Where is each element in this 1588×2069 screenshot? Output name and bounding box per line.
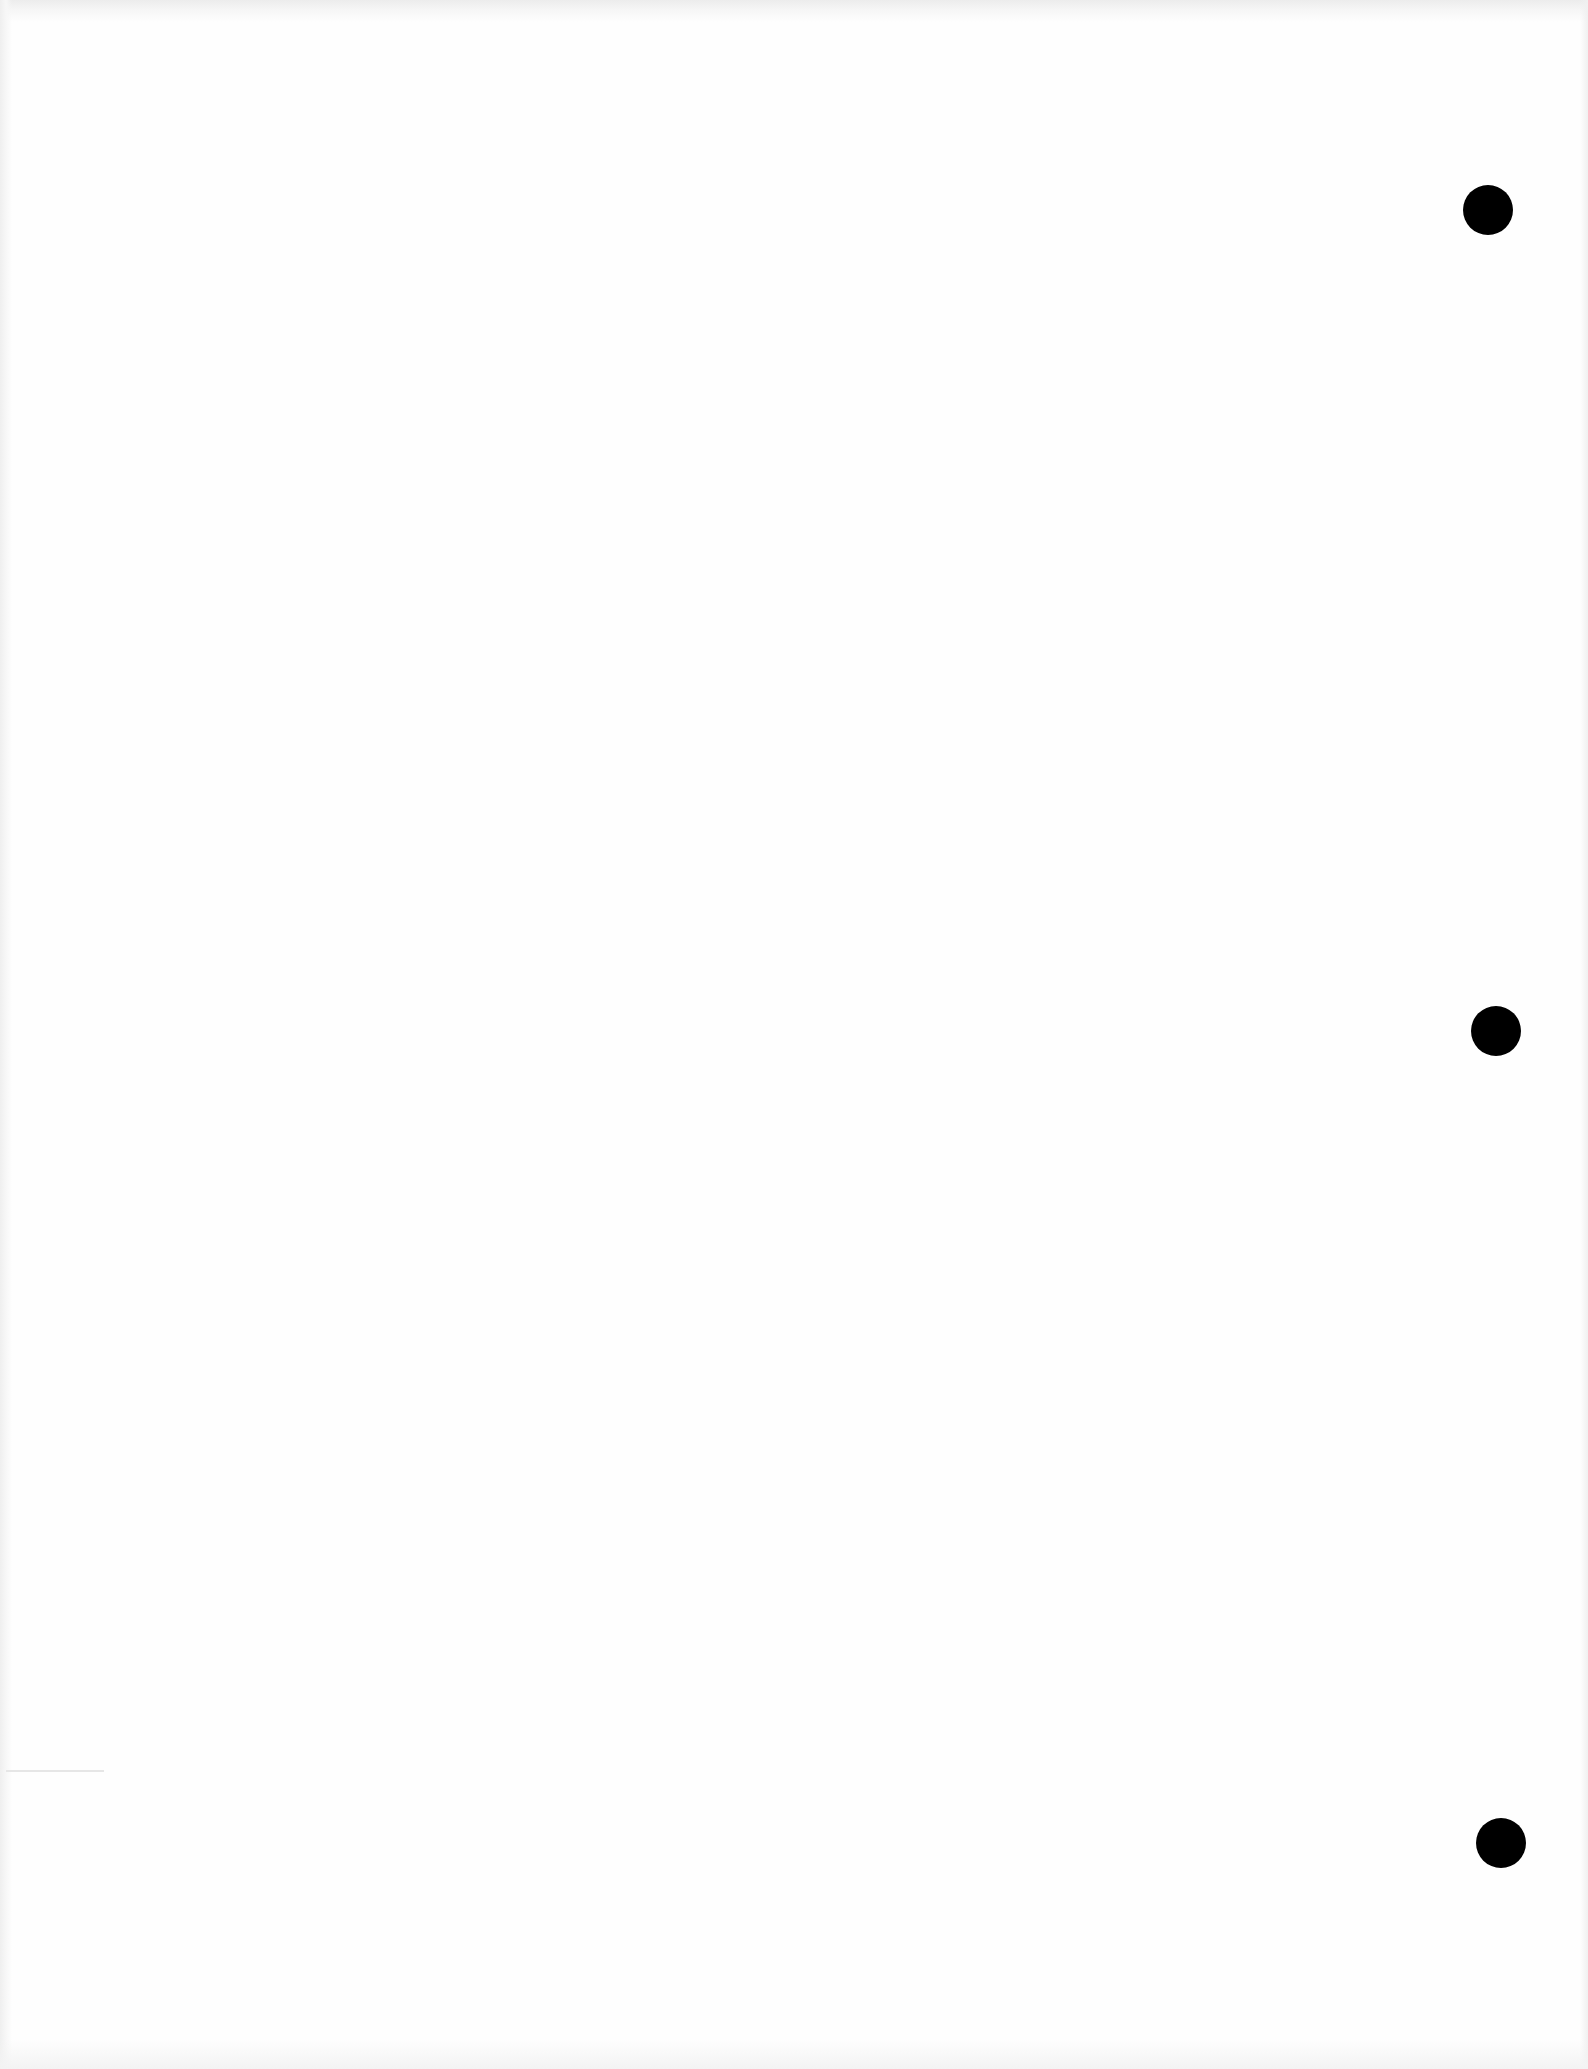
scan-edge-shadow-top (0, 0, 1588, 22)
punch-hole-bottom-icon (1476, 1818, 1526, 1868)
faint-scan-line (6, 1770, 104, 1772)
punch-hole-middle-icon (1471, 1006, 1521, 1056)
blank-page (0, 0, 1588, 2069)
scan-edge-shadow-bottom (0, 2039, 1588, 2069)
punch-hole-top-icon (1463, 185, 1513, 235)
scan-edge-shadow-left (0, 0, 12, 2069)
scan-edge-shadow-right (1580, 0, 1588, 2069)
